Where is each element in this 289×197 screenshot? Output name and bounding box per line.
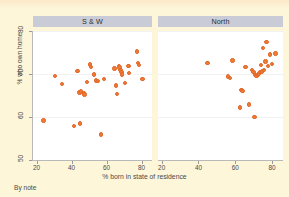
data-point	[41, 118, 45, 122]
data-point	[264, 40, 268, 44]
data-point	[205, 61, 209, 65]
y-tick-mark	[29, 117, 32, 118]
gridline	[33, 117, 152, 118]
data-point	[78, 121, 82, 125]
data-point	[135, 49, 139, 53]
gridline	[158, 117, 283, 118]
x-axis-line	[33, 160, 152, 161]
data-point	[247, 102, 251, 106]
panel-header-north: North	[158, 16, 283, 27]
data-point	[102, 77, 106, 81]
data-point	[140, 77, 144, 81]
data-point	[53, 74, 57, 78]
data-point	[112, 66, 116, 70]
x-axis-line	[158, 160, 283, 161]
data-point	[137, 63, 141, 67]
x-tick-label: 60	[99, 164, 115, 171]
figure-note: By note	[14, 184, 36, 191]
data-point	[230, 58, 234, 62]
x-tick-label: 40	[64, 164, 80, 171]
x-tick-label: 40	[190, 164, 206, 171]
data-point	[96, 79, 100, 83]
x-tick-label: 80	[264, 164, 280, 171]
data-point	[273, 51, 277, 55]
data-point	[262, 68, 266, 72]
data-point	[261, 46, 265, 50]
plot-panel-sw	[33, 31, 152, 160]
data-point	[243, 65, 247, 69]
x-tick-label: 20	[154, 164, 170, 171]
data-point	[120, 72, 124, 76]
y-axis-title: % who own home	[16, 0, 23, 119]
data-point	[99, 132, 103, 136]
panel-header-sw: S & W	[33, 16, 152, 27]
data-point	[92, 72, 96, 76]
data-point	[270, 62, 274, 66]
scatter-figure: % who own home 50607080 S & WNorth 20406…	[0, 0, 289, 197]
data-point	[60, 82, 64, 86]
y-tick-mark	[29, 160, 32, 161]
gridline	[158, 74, 283, 75]
y-tick-label: 50	[17, 153, 24, 165]
y-tick-label: 80	[17, 24, 24, 36]
data-point	[114, 83, 118, 87]
gridline	[158, 31, 283, 32]
data-point	[252, 115, 256, 119]
top-cropped-strip	[0, 0, 289, 9]
y-tick-label: 60	[17, 110, 24, 122]
data-point	[238, 105, 242, 109]
gridline	[33, 31, 152, 32]
y-tick-label: 70	[17, 67, 24, 79]
data-point	[263, 59, 267, 63]
data-point	[259, 63, 263, 67]
data-point	[75, 69, 79, 73]
y-tick-mark	[29, 74, 32, 75]
data-point	[85, 80, 89, 84]
x-tick-label: 60	[227, 164, 243, 171]
data-point	[126, 64, 130, 68]
data-point	[123, 81, 127, 85]
plot-panel-north	[158, 31, 283, 160]
data-point	[82, 92, 86, 96]
x-axis-title: % born in state of residence	[0, 173, 289, 180]
data-point	[89, 65, 93, 69]
data-point	[72, 124, 76, 128]
x-tick-label: 80	[134, 164, 150, 171]
y-tick-mark	[29, 31, 32, 32]
data-point	[115, 92, 119, 96]
data-point	[268, 52, 272, 56]
data-point	[240, 89, 244, 93]
data-point	[228, 76, 232, 80]
x-tick-label: 20	[29, 164, 45, 171]
